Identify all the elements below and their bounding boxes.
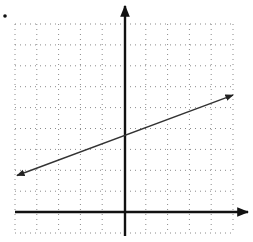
bullet-dot bbox=[3, 14, 7, 18]
coordinate-plane bbox=[0, 0, 253, 242]
